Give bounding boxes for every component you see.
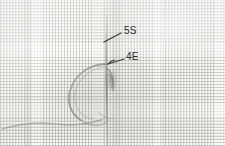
annotation-label-5s: 5S	[124, 26, 137, 36]
annotation-label-4e: 4E	[126, 52, 139, 62]
annotated-micrograph: 5S 4E	[0, 0, 225, 146]
leader-line-5s	[104, 33, 121, 42]
